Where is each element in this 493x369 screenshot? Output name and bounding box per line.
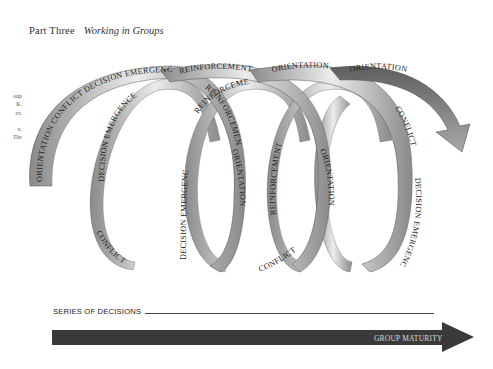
group-maturity-label: GROUP MATURITY — [374, 334, 443, 343]
series-of-decisions-line — [145, 313, 434, 314]
series-of-decisions-label: SERIES OF DECISIONS — [53, 307, 141, 316]
label-loop2-orientation: ORIENTATION — [230, 148, 247, 206]
label-loop3-reinforcement: REINFORCEMENT — [268, 142, 284, 216]
